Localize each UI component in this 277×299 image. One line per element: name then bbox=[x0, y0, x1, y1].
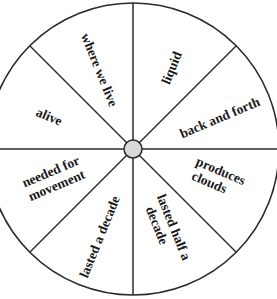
word-wheel-diagram: where we live liquid back and forth prod… bbox=[0, 0, 277, 299]
wheel-hub bbox=[124, 140, 142, 158]
